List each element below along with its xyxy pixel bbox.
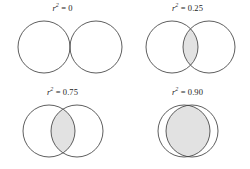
venn-circle-left-0 [18,21,70,73]
venn-circle-right-0 [70,21,122,73]
r-squared-venn-figure: r2 = 0 r2 = 0.25 r2 = 0.75 r2 = 0.9 [0,0,250,169]
venn-panel-0: r2 = 0 [0,0,125,84]
panel-label-value-2: 0.75 [63,87,78,97]
panel-label-equals-2: = [53,87,62,97]
panel-label-value-0: 0 [68,3,72,13]
panel-label-2: r2 = 0.75 [47,88,78,97]
venn-diagram-1 [125,14,250,84]
panel-label-value-3: 0.90 [188,87,203,97]
venn-panel-1: r2 = 0.25 [125,0,250,84]
panel-label-equals-3: = [178,87,187,97]
panel-label-0: r2 = 0 [52,4,72,13]
panel-label-1: r2 = 0.25 [172,4,203,13]
venn-diagram-0 [0,14,125,84]
venn-panel-3: r2 = 0.90 [125,84,250,169]
panel-label-equals-1: = [178,3,187,13]
panel-label-value-1: 0.25 [188,3,203,13]
panel-label-equals-0: = [59,3,68,13]
venn-panel-2: r2 = 0.75 [0,84,125,169]
venn-diagram-2 [0,98,125,168]
panel-label-3: r2 = 0.90 [172,88,203,97]
venn-diagram-3 [125,98,250,168]
